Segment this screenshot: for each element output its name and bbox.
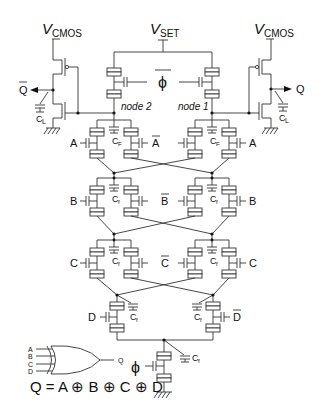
svg-text:f: f	[216, 199, 218, 205]
label-a-left: A	[70, 137, 78, 149]
xor-input-b: B	[28, 353, 33, 360]
phi-bottom-label: ϕ	[131, 359, 140, 376]
label-dbar: D	[233, 311, 241, 323]
stage-d	[100, 295, 230, 340]
set-xor-circuit-diagram: V CMOS V SET V CMOS	[0, 0, 323, 418]
svg-text:CMOS: CMOS	[52, 28, 82, 39]
svg-text:F: F	[118, 141, 122, 147]
xor-input-c: C	[28, 361, 33, 368]
svg-text:CMOS: CMOS	[264, 28, 294, 39]
svg-text:f: f	[118, 261, 120, 267]
label-c-right: C	[249, 257, 257, 269]
label-d: D	[88, 311, 96, 323]
phi-top-label: ϕ	[155, 70, 171, 91]
svg-text:f: f	[200, 317, 202, 323]
xor-equation: Q = A ⊕ B ⊕ C ⊕ D	[30, 378, 163, 395]
svg-text:Q: Q	[296, 83, 305, 95]
xor-output-q: Q	[118, 357, 124, 365]
vcmos-left-label: V CMOS	[42, 20, 82, 39]
svg-text:f: f	[198, 358, 200, 364]
xor-gate-symbol	[36, 346, 114, 374]
vset-label: V SET	[150, 20, 179, 40]
svg-text:ϕ: ϕ	[158, 74, 167, 91]
svg-text:f: f	[216, 261, 218, 267]
svg-text:f: f	[118, 199, 120, 205]
svg-text:f: f	[136, 317, 138, 323]
node2-label: node 2	[121, 101, 152, 112]
qbar-output: Q	[19, 82, 53, 96]
xor-input-a: A	[28, 346, 33, 353]
xor-input-d: D	[28, 368, 33, 375]
label-c-left: C	[70, 257, 78, 269]
stage-a	[80, 113, 246, 173]
node1-label: node 1	[178, 101, 209, 112]
cl-left-capacitor: C L	[35, 92, 48, 125]
vset-wires	[114, 40, 212, 68]
svg-text:F: F	[216, 141, 220, 147]
vcmos-right-label: V CMOS	[254, 20, 294, 39]
label-cbar: C	[161, 257, 169, 269]
cl-right-capacitor: C L	[275, 91, 289, 124]
svg-text:SET: SET	[160, 28, 179, 39]
label-b-left: B	[70, 195, 77, 207]
label-abar: A	[152, 137, 160, 149]
label-a-right: A	[249, 137, 257, 149]
svg-text:Q: Q	[19, 84, 28, 96]
label-bbar: B	[161, 195, 168, 207]
svg-text:L: L	[285, 117, 289, 124]
svg-text:L: L	[42, 118, 46, 125]
label-b-right: B	[249, 195, 256, 207]
